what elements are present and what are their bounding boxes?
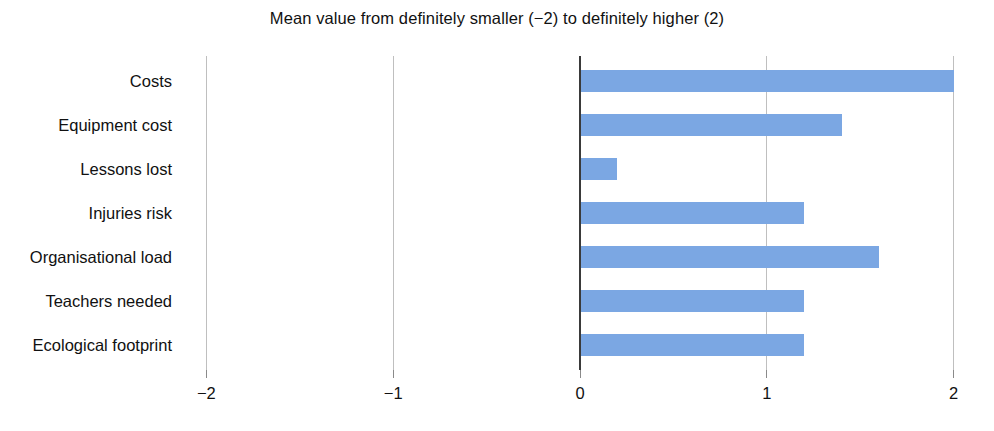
category-label: Lessons lost [80,147,172,191]
x-axis-tick-labels: −2−1012 [0,382,994,408]
tick-mark [953,370,954,378]
bar [580,334,804,356]
bar-row: Organisational load [0,235,994,279]
bar-row: Injuries risk [0,191,994,235]
bar-row: Lessons lost [0,147,994,191]
x-tick-label: 1 [737,382,797,404]
category-label: Ecological footprint [33,323,172,367]
category-label: Organisational load [30,235,172,279]
tick-mark [393,370,394,378]
x-tick-label: 2 [924,382,984,404]
bar-row: Equipment cost [0,103,994,147]
x-tick-label: −1 [363,382,423,404]
category-label: Teachers needed [45,279,172,323]
category-label: Equipment cost [58,103,172,147]
x-tick-label: −2 [176,382,236,404]
bar [580,70,954,92]
category-label: Costs [130,59,172,103]
bar [580,114,842,136]
plot-area: CostsEquipment costLessons lostInjuries … [0,56,994,370]
x-axis-tick-marks [0,370,994,378]
category-label: Injuries risk [89,191,172,235]
bar-row: Ecological footprint [0,323,994,367]
tick-mark [206,370,207,378]
bar [580,290,804,312]
bar [580,202,804,224]
x-tick-label: 0 [550,382,610,404]
zero-axis-line [579,56,581,370]
bar [580,246,879,268]
chart-title: Mean value from definitely smaller (−2) … [0,8,994,28]
bar-row: Costs [0,59,994,103]
tick-mark [580,370,581,378]
bar [580,158,617,180]
tick-mark [766,370,767,378]
bar-chart-figure: Mean value from definitely smaller (−2) … [0,0,994,431]
bar-row: Teachers needed [0,279,994,323]
